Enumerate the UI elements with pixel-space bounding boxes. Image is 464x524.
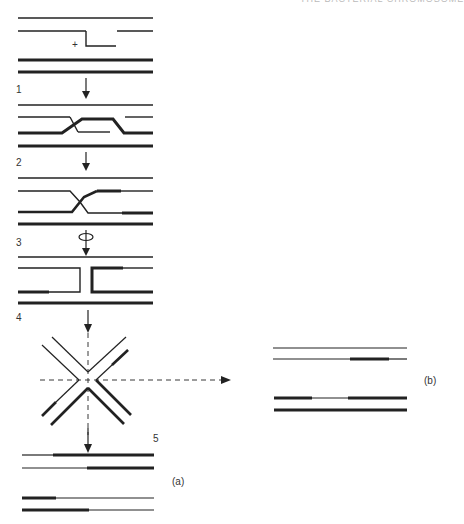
step-number-3: 3: [16, 237, 22, 248]
stage-2: [18, 178, 153, 224]
step-number-2: 2: [16, 157, 22, 168]
down-arrow-icon: [82, 78, 90, 99]
down-arrow-icon: [84, 310, 92, 333]
product-b: [273, 348, 407, 410]
panel-label-a: (a): [172, 476, 184, 487]
step-number-5: 5: [153, 433, 159, 444]
panel-label-b: (b): [424, 375, 436, 386]
product-a: [22, 455, 154, 510]
dashed-arrow-icon: [192, 376, 231, 384]
stage-initial: [18, 18, 153, 72]
stage-3: [18, 257, 153, 303]
down-arrow-icon: [84, 428, 92, 453]
down-arrow-icon: [82, 152, 90, 171]
step-number-4: 4: [16, 312, 22, 323]
step-number-1: 1: [16, 84, 22, 95]
stage-4-chi-structure: [40, 333, 192, 435]
nick-marker: +: [72, 39, 78, 50]
stage-1: [18, 105, 153, 146]
rotation-icon: [79, 230, 93, 256]
